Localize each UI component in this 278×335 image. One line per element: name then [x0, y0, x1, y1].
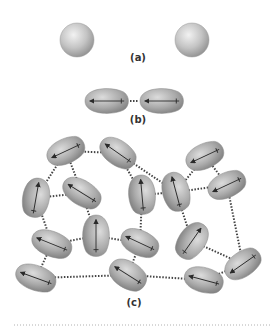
- dispersion-links: [36, 151, 243, 280]
- dipole-molecule: [43, 132, 89, 171]
- panel-b-dipoles: [85, 89, 183, 114]
- dipole-molecule: [85, 89, 128, 114]
- dipole-molecule: [28, 225, 76, 264]
- dipole-molecule: [158, 169, 194, 214]
- panel-a-label: (a): [130, 52, 146, 63]
- atom-sphere: [60, 23, 94, 57]
- dipole-molecule: [220, 243, 267, 286]
- dipole-molecule: [19, 176, 52, 220]
- atom-sphere: [175, 23, 209, 57]
- dipole-molecule: [83, 215, 110, 256]
- dipole-molecule: [182, 137, 228, 176]
- panel-b-label: (b): [130, 114, 146, 125]
- dipole-molecule: [104, 253, 152, 297]
- dipole-molecule: [58, 171, 106, 214]
- dipole-molecule: [140, 89, 183, 114]
- dipole-molecule: [204, 166, 250, 205]
- dipole-molecule: [127, 174, 157, 216]
- panel-c-label: (c): [126, 297, 141, 308]
- london-dispersion-diagram: [0, 0, 278, 335]
- dipole-molecule: [95, 131, 142, 174]
- panel-c-dipoles: [12, 131, 266, 297]
- dipole-molecule: [170, 217, 215, 265]
- dipole-molecule: [181, 263, 226, 297]
- dipole-molecule: [12, 259, 59, 296]
